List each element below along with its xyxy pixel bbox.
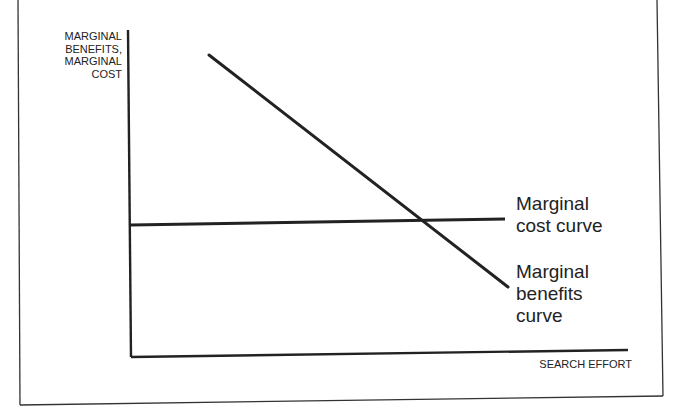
y-axis: [128, 30, 131, 357]
label-line: benefits: [516, 283, 589, 305]
y-axis-label-line: MARGINAL: [40, 30, 122, 43]
marginal-cost-curve: [131, 219, 505, 225]
label-line: cost curve: [516, 215, 603, 237]
marginal-benefits-label: Marginal benefits curve: [516, 261, 589, 327]
y-axis-label-line: COST: [40, 68, 122, 81]
x-axis-label: SEARCH EFFORT: [520, 358, 632, 370]
y-axis-label-line: MARGINAL: [40, 55, 122, 68]
label-line: curve: [516, 305, 589, 327]
y-axis-label-line: BENEFITS,: [40, 43, 122, 56]
label-line: Marginal: [516, 261, 589, 283]
y-axis-label: MARGINAL BENEFITS, MARGINAL COST: [40, 30, 122, 80]
marginal-benefits-curve: [209, 55, 508, 287]
x-axis: [131, 350, 628, 357]
marginal-cost-label: Marginal cost curve: [516, 193, 603, 237]
label-line: Marginal: [516, 193, 603, 215]
